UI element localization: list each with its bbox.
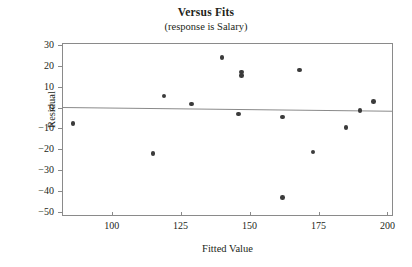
x-tick-mark <box>319 212 320 216</box>
data-point <box>371 99 376 104</box>
y-tick-label: −50 <box>28 207 54 217</box>
x-tick-label: 175 <box>299 220 339 231</box>
x-tick-mark <box>181 212 182 216</box>
data-point <box>344 125 349 130</box>
y-tick-label: −30 <box>28 165 54 175</box>
y-tick-mark <box>58 66 62 67</box>
y-tick-label: −20 <box>28 144 54 154</box>
plot-frame <box>62 43 393 216</box>
x-tick-label: 100 <box>92 220 132 231</box>
x-tick-mark <box>387 212 388 216</box>
y-tick-label: 20 <box>28 61 54 71</box>
x-axis-label: Fitted Value <box>62 243 393 254</box>
y-tick-mark <box>58 191 62 192</box>
y-tick-label: −40 <box>28 186 54 196</box>
data-point <box>358 108 363 113</box>
x-tick-label: 200 <box>367 220 407 231</box>
data-point <box>280 195 285 200</box>
y-tick-mark <box>58 170 62 171</box>
data-point <box>151 151 156 156</box>
x-tick-label: 125 <box>161 220 201 231</box>
x-tick-mark <box>250 212 251 216</box>
data-point <box>189 102 194 107</box>
data-point <box>239 73 244 78</box>
chart-title: Versus Fits <box>0 6 412 18</box>
y-tick-label: 10 <box>28 82 54 92</box>
y-tick-mark <box>58 45 62 46</box>
y-tick-mark <box>58 87 62 88</box>
y-tick-label: 30 <box>28 40 54 50</box>
versus-fits-chart: Versus Fits (response is Salary) Residua… <box>0 0 412 267</box>
y-tick-mark <box>58 212 62 213</box>
data-point <box>220 55 225 60</box>
data-point <box>297 68 302 73</box>
x-tick-label: 150 <box>230 220 270 231</box>
y-tick-label: −10 <box>28 123 54 133</box>
y-tick-label: 0 <box>28 103 54 113</box>
x-tick-mark <box>112 212 113 216</box>
chart-subtitle: (response is Salary) <box>0 21 412 32</box>
data-point <box>236 112 241 117</box>
y-tick-mark <box>58 128 62 129</box>
y-tick-mark <box>58 149 62 150</box>
